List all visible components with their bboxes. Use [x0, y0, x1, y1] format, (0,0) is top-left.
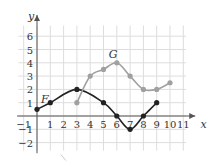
chart-container: −11234567891011654321−1−2xyFG: [0, 0, 221, 167]
data-point-G: [88, 74, 93, 79]
data-point-G: [128, 74, 133, 79]
x-tick-label: 8: [140, 119, 146, 130]
y-axis-label: y: [27, 10, 35, 23]
x-tick-label: 11: [177, 119, 190, 130]
x-tick-label: 4: [87, 119, 93, 130]
data-point-G: [74, 100, 79, 105]
data-point-G: [101, 67, 106, 72]
x-tick-label: 6: [114, 119, 120, 130]
y-tick-label: −2: [18, 138, 33, 149]
data-point-F: [128, 127, 133, 132]
x-tick-label: 1: [47, 119, 53, 130]
stray-mark: [61, 155, 66, 161]
series-line-F: [37, 89, 157, 129]
y-tick-label: 3: [27, 71, 33, 82]
y-tick-label: 6: [27, 31, 33, 42]
data-point-F: [114, 113, 119, 118]
line-chart: −11234567891011654321−1−2xyFG: [0, 0, 221, 167]
x-tick-label: 9: [154, 119, 160, 130]
x-axis-arrow-icon: [189, 113, 195, 119]
y-tick-label: 4: [27, 58, 33, 69]
data-point-F: [74, 87, 79, 92]
y-tick-label: 1: [27, 98, 33, 109]
y-tick-label: 5: [27, 45, 33, 56]
x-axis-label: x: [201, 118, 208, 131]
data-point-G: [154, 87, 159, 92]
data-point-F: [101, 100, 106, 105]
y-axis-arrow-icon: [34, 15, 40, 21]
x-tick-label: 5: [100, 119, 106, 130]
y-tick-label: 2: [27, 84, 33, 95]
data-point-F: [141, 113, 146, 118]
data-point-G: [141, 87, 146, 92]
x-tick-label: 2: [60, 119, 66, 130]
data-point-F: [154, 100, 159, 105]
x-tick-label: 3: [74, 119, 80, 130]
data-point-G: [167, 80, 172, 85]
series-line-G: [77, 63, 170, 103]
y-tick-label: −1: [18, 124, 33, 135]
data-point-F: [34, 107, 39, 112]
series-label-G: G: [109, 48, 118, 61]
x-tick-label: 10: [164, 119, 177, 130]
series-label-F: F: [40, 93, 49, 106]
